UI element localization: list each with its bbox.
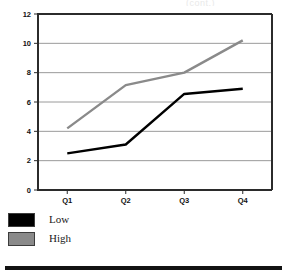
y-axis-tick-label: 6 xyxy=(27,98,31,107)
data-series-group xyxy=(67,40,243,153)
y-axis-tick-label: 10 xyxy=(23,39,31,48)
line-chart: 024681012 Q1Q2Q3Q4 xyxy=(0,0,287,205)
bottom-horizontal-rule xyxy=(5,266,282,270)
series-line-high xyxy=(67,40,243,128)
series-line-low xyxy=(67,89,243,154)
chart-canvas: 024681012 Q1Q2Q3Q4 xyxy=(0,0,287,205)
legend-swatch-low xyxy=(8,213,35,227)
x-axis-tick-label: Q3 xyxy=(179,196,189,205)
legend-label-high: High xyxy=(49,233,71,244)
legend-label-low: Low xyxy=(49,214,69,225)
y-axis-tick-label: 4 xyxy=(27,127,32,136)
legend-swatch-high xyxy=(8,232,35,246)
x-axis-labels-group: Q1Q2Q3Q4 xyxy=(62,196,248,205)
y-axis-labels-group: 024681012 xyxy=(23,10,32,195)
x-axis-tick-label: Q2 xyxy=(121,196,131,205)
legend-item-high[interactable]: High xyxy=(8,229,148,248)
chart-legend: LowHigh xyxy=(8,210,148,248)
x-axis-tick-label: Q4 xyxy=(238,196,249,205)
y-axis-tick-label: 8 xyxy=(27,68,31,77)
x-axis-tick-label: Q1 xyxy=(62,196,72,205)
chart-page: (cont.) 024681012 Q1Q2Q3Q4 LowHigh xyxy=(0,0,287,273)
y-axis-tick-label: 2 xyxy=(27,156,31,165)
gridlines-group xyxy=(38,14,272,161)
y-axis-tick-label: 12 xyxy=(23,10,31,19)
y-axis-tick-label: 0 xyxy=(27,186,31,195)
legend-item-low[interactable]: Low xyxy=(8,210,148,229)
